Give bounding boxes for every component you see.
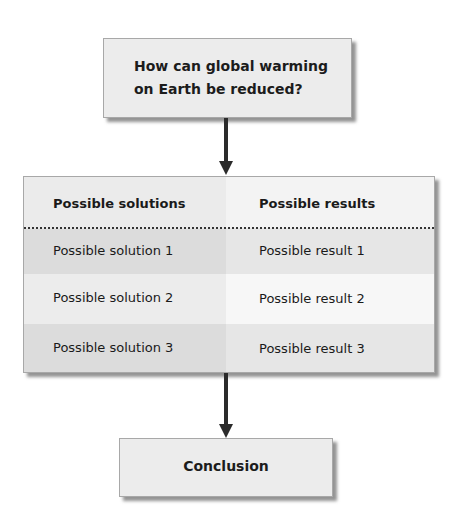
header-cell-results: Possible results bbox=[226, 177, 434, 228]
table-row-3-result: Possible result 3 bbox=[226, 324, 434, 372]
header-cell-solutions: Possible solutions bbox=[24, 177, 226, 228]
table-row-1-solution: Possible solution 1 bbox=[24, 229, 226, 274]
conclusion-label: Conclusion bbox=[120, 458, 332, 474]
header-label: Possible results bbox=[259, 196, 375, 211]
arrowhead-icon bbox=[219, 161, 233, 175]
table-row-2-result: Possible result 2 bbox=[226, 274, 434, 324]
cell-text: Possible result 1 bbox=[259, 243, 365, 258]
cell-text: Possible result 2 bbox=[259, 291, 365, 306]
cell-text: Possible solution 1 bbox=[53, 243, 173, 258]
table-row-3-solution: Possible solution 3 bbox=[24, 324, 226, 372]
table-row-1-result: Possible result 1 bbox=[226, 229, 434, 274]
conclusion-box: Conclusion bbox=[119, 438, 333, 497]
cell-text: Possible solution 3 bbox=[53, 340, 173, 355]
arrow-down-icon bbox=[224, 373, 228, 427]
question-text: How can global warming on Earth be reduc… bbox=[134, 55, 328, 101]
cell-text: Possible solution 2 bbox=[53, 290, 173, 305]
question-line-2: on Earth be reduced? bbox=[134, 78, 328, 101]
arrowhead-icon bbox=[219, 424, 233, 438]
table-row-2-solution: Possible solution 2 bbox=[24, 274, 226, 324]
question-line-1: How can global warming bbox=[134, 55, 328, 78]
solutions-table: Possible solutions Possible results Poss… bbox=[23, 176, 435, 373]
arrow-down-icon bbox=[224, 118, 228, 164]
header-label: Possible solutions bbox=[53, 196, 185, 211]
question-box: How can global warming on Earth be reduc… bbox=[103, 38, 352, 118]
cell-text: Possible result 3 bbox=[259, 341, 365, 356]
